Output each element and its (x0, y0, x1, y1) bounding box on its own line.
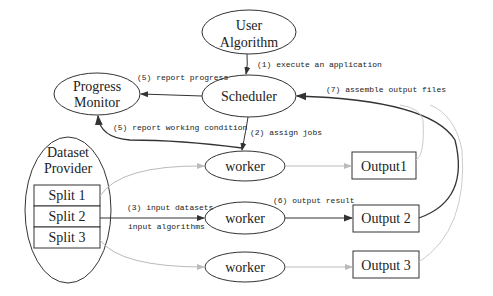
edge-report-progress (141, 94, 202, 96)
node-output-1: Output1 (352, 152, 416, 179)
node-worker-1: worker (205, 151, 285, 181)
split-2-label: Split 2 (49, 209, 86, 224)
edge-assign-jobs (242, 117, 248, 150)
user-algorithm-line2: Algorithm (220, 35, 278, 50)
node-progress-monitor: Progress Monitor (54, 73, 140, 115)
worker-2-label: worker (225, 211, 265, 226)
user-algorithm-line1: User (236, 18, 263, 33)
worker-3-label: worker (225, 260, 265, 275)
dataset-provider-line2: Provider (44, 161, 93, 176)
worker-1-label: worker (225, 159, 265, 174)
node-worker-3: worker (205, 252, 285, 282)
output-2-label: Output 2 (361, 211, 410, 226)
edge-assign-jobs-label: (2) assign jobs (250, 128, 322, 137)
progress-monitor-line1: Progress (73, 79, 121, 94)
scheduler-label: Scheduler (221, 89, 277, 104)
edge-assemble-label: (7) assemble output files (326, 85, 446, 94)
node-worker-2: worker (205, 202, 285, 234)
output-1-label: Output1 (361, 159, 407, 174)
edge-input-algorithms-label: input algorithms (128, 222, 205, 231)
dataset-provider-line1: Dataset (47, 145, 89, 160)
node-dataset-provider: Dataset Provider Split 1 Split 2 Split 3 (25, 137, 111, 283)
edge-split1-worker1 (100, 166, 204, 196)
node-output-3: Output 3 (353, 251, 419, 278)
edge-input-datasets-label: (3) input datasets (127, 203, 214, 212)
split-3-label: Split 3 (49, 230, 86, 245)
node-user-algorithm: User Algorithm (202, 10, 296, 54)
workflow-diagram: User Algorithm Scheduler Progress Monito… (0, 0, 493, 296)
edge-execute-label: (1) execute an application (257, 60, 382, 69)
split-1-label: Split 1 (49, 188, 86, 203)
edge-report-progress-label: (5) report progress (137, 73, 228, 82)
edge-output-result-label: (6) output result (273, 196, 355, 205)
edge-execute (246, 54, 247, 74)
edge-report-working (98, 116, 242, 148)
edge-report-working-label: (5) report working condition (113, 123, 248, 132)
output-3-label: Output 3 (361, 258, 410, 273)
node-output-2: Output 2 (353, 205, 419, 232)
edge-split3-worker3 (100, 240, 204, 267)
progress-monitor-line2: Monitor (74, 95, 120, 110)
